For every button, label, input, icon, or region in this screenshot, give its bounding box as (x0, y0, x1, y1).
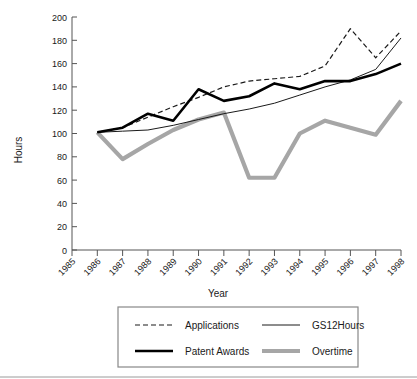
y-tick-label: 180 (52, 36, 67, 46)
x-tick-label: 1998 (385, 256, 406, 277)
y-axis-title: Hours (13, 137, 24, 164)
series-line-gs12hours (97, 38, 401, 132)
legend: ApplicationsGS12HoursPatent AwardsOverti… (135, 320, 364, 357)
legend-label-overtime: Overtime (312, 346, 353, 357)
y-tick-label: 60 (57, 176, 67, 186)
y-tick-label: 200 (52, 13, 67, 23)
x-tick-label: 1997 (360, 256, 381, 277)
y-tick-label: 20 (57, 222, 67, 232)
y-tick-label: 140 (52, 82, 67, 92)
x-tick-label: 1996 (335, 256, 356, 277)
series-line-overtime (97, 101, 401, 178)
x-tick-label: 1991 (208, 256, 229, 277)
y-tick-label: 120 (52, 106, 67, 116)
x-tick-label: 1990 (183, 256, 204, 277)
x-tick-label: 1989 (157, 256, 178, 277)
x-tick-label: 1994 (284, 256, 305, 277)
legend-label-applications: Applications (185, 320, 239, 331)
x-tick-label: 1995 (309, 256, 330, 277)
chart-container: Hours 020406080100120140160180200 198519… (0, 0, 417, 379)
legend-label-patent-awards: Patent Awards (185, 346, 249, 357)
x-tick-label: 1993 (259, 256, 280, 277)
x-tick-label: 1985 (56, 256, 77, 277)
y-tick-label: 0 (62, 246, 67, 256)
x-tick-label: 1986 (81, 256, 102, 277)
x-tick-label: 1992 (233, 256, 254, 277)
y-tick-label: 80 (57, 152, 67, 162)
y-tick-label: 40 (57, 199, 67, 209)
legend-box (118, 307, 358, 367)
y-tick-label: 160 (52, 59, 67, 69)
series-layer (97, 29, 401, 178)
x-axis-title: Year (208, 288, 229, 299)
x-tick-label: 1987 (107, 256, 128, 277)
y-axis-ticks: 020406080100120140160180200 (52, 13, 77, 256)
x-tick-label: 1988 (132, 256, 153, 277)
x-axis-ticks: 1985198619871988198919901991199219931994… (56, 250, 406, 278)
series-line-patent-awards (97, 64, 401, 133)
legend-label-gs12hours: GS12Hours (312, 320, 364, 331)
line-chart: Hours 020406080100120140160180200 198519… (0, 0, 417, 379)
y-tick-label: 100 (52, 129, 67, 139)
